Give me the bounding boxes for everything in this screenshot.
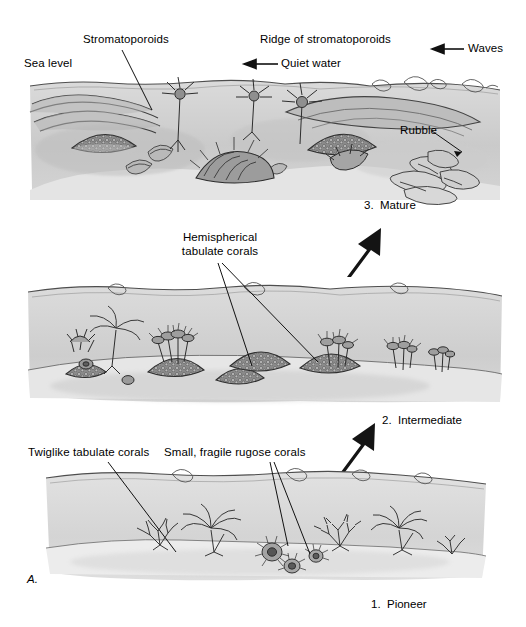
reef-development-figure: Sea level Stromatoporoids Ridge of strom… — [0, 0, 526, 627]
arrow-pioneer-to-intermediate-shape — [341, 423, 375, 472]
arrow-intermediate-to-mature-shape — [347, 228, 381, 277]
stage-label-pioneer: 1. Pioneer — [371, 598, 427, 610]
label-hemispherical-tabulate-corals-line2: tabulate corals — [170, 245, 270, 259]
arrow-waves — [432, 45, 464, 54]
arrow-quiet-water — [244, 60, 278, 69]
label-quiet-water: Quiet water — [281, 57, 341, 71]
label-rubble: Rubble — [400, 124, 437, 138]
label-small-fragile-rugose-corals: Small, fragile rugose corals — [164, 446, 306, 460]
label-sea-level: Sea level — [24, 57, 72, 71]
panel-pioneer-artwork — [46, 468, 486, 580]
label-ridge-of-stromatoporoids: Ridge of stromatoporoids — [260, 33, 391, 47]
label-stromatoporoids: Stromatoporoids — [83, 33, 169, 47]
figure-letter: A. — [27, 573, 38, 585]
panel-mature-artwork — [30, 77, 500, 205]
label-hemispherical-tabulate-corals-line1: Hemispherical — [170, 231, 270, 245]
stage-label-intermediate: 2. Intermediate — [382, 414, 462, 426]
label-twiglike-tabulate-corals: Twiglike tabulate corals — [28, 446, 149, 460]
panel-intermediate-artwork — [28, 282, 502, 402]
stage-label-mature: 3. Mature — [364, 199, 416, 211]
label-waves: Waves — [468, 42, 503, 56]
figure-artwork — [0, 0, 526, 627]
